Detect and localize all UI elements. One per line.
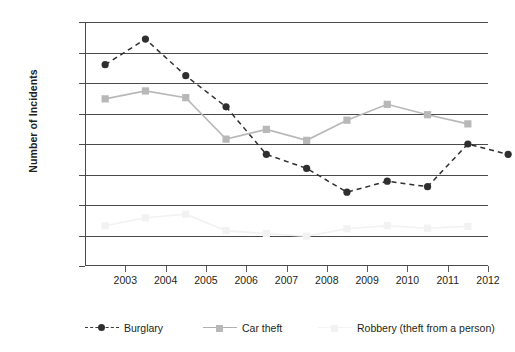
data-point — [343, 225, 350, 232]
x-tick-label: 2003 — [105, 274, 145, 286]
data-point — [222, 103, 229, 110]
x-tick — [327, 266, 328, 272]
robbery-marker-icon — [318, 322, 352, 334]
legend-label-burglary: Burglary — [124, 322, 163, 334]
data-point — [424, 183, 431, 190]
data-point — [464, 120, 471, 127]
x-tick — [125, 266, 126, 272]
data-point — [102, 61, 109, 68]
x-tick — [488, 266, 489, 272]
x-tick — [367, 266, 368, 272]
data-point — [464, 223, 471, 230]
legend-label-robbery: Robbery (theft from a person) — [357, 322, 495, 334]
data-point — [303, 137, 310, 144]
data-point — [102, 222, 109, 229]
data-point — [424, 225, 431, 232]
data-point — [384, 101, 391, 108]
x-tick — [246, 266, 247, 272]
x-tick-label: 2006 — [226, 274, 266, 286]
data-point — [505, 151, 512, 158]
x-tick — [287, 266, 288, 272]
chart-figure: Number of Incidents 05001000150020002500… — [0, 0, 515, 352]
data-point — [182, 94, 189, 101]
series-line — [105, 91, 468, 140]
data-point — [222, 136, 229, 143]
legend-label-car-theft: Car theft — [242, 322, 282, 334]
x-tick-label: 2010 — [387, 274, 427, 286]
data-point — [142, 214, 149, 221]
data-point — [303, 165, 310, 172]
data-point — [263, 230, 270, 237]
data-point — [343, 117, 350, 124]
y-axis-title: Number of Incidents — [27, 26, 39, 216]
data-point — [222, 227, 229, 234]
data-point — [142, 87, 149, 94]
data-point — [384, 222, 391, 229]
x-tick-label: 2007 — [267, 274, 307, 286]
x-tick — [407, 266, 408, 272]
car-theft-marker-icon — [203, 322, 237, 334]
x-tick-label: 2009 — [347, 274, 387, 286]
data-point — [343, 189, 350, 196]
data-point — [263, 151, 270, 158]
data-point — [182, 72, 189, 79]
series-burglary — [102, 35, 512, 195]
x-tick-label: 2008 — [307, 274, 347, 286]
legend-item-burglary: Burglary — [85, 322, 163, 334]
series-robbery-theft-from-a-person — [102, 211, 472, 240]
data-point — [464, 140, 471, 147]
plot-area: 05001000150020002500300035004000 2003200… — [85, 22, 488, 266]
data-point — [102, 95, 109, 102]
data-point — [424, 111, 431, 118]
x-tick-label: 2012 — [468, 274, 508, 286]
legend-item-robbery: Robbery (theft from a person) — [318, 322, 495, 334]
data-point — [182, 211, 189, 218]
x-tick — [166, 266, 167, 272]
series-line — [105, 214, 468, 236]
x-tick — [448, 266, 449, 272]
data-point — [142, 35, 149, 42]
x-tick-label: 2004 — [146, 274, 186, 286]
chart-legend: Burglary Car theft Robbery (theft from a… — [0, 322, 515, 346]
legend-item-car-theft: Car theft — [203, 322, 282, 334]
x-tick-label: 2011 — [428, 274, 468, 286]
x-tick-label: 2005 — [186, 274, 226, 286]
series-layer — [85, 22, 488, 266]
data-point — [384, 178, 391, 185]
y-tick — [79, 266, 85, 267]
data-point — [303, 233, 310, 240]
burglary-marker-icon — [85, 322, 119, 334]
series-car-theft — [102, 87, 472, 144]
data-point — [263, 126, 270, 133]
x-tick — [206, 266, 207, 272]
